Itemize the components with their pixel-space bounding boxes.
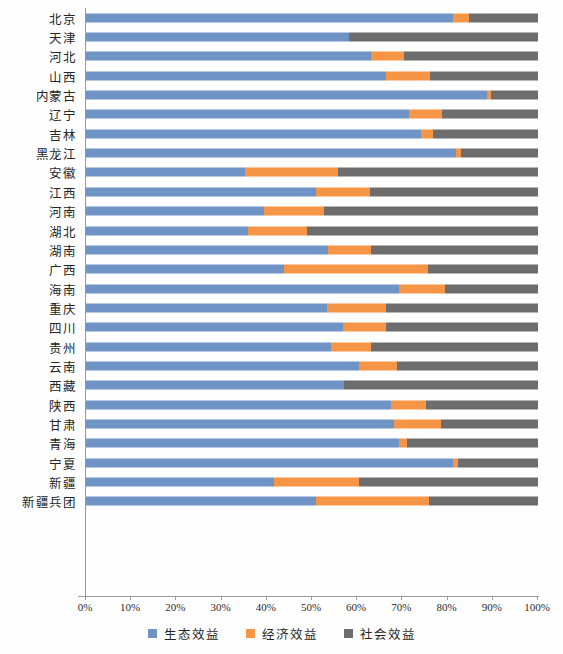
bar-segment-social bbox=[407, 439, 538, 448]
x-axis-tick-mark bbox=[221, 596, 222, 600]
x-axis-tick-mark bbox=[175, 596, 176, 600]
stacked-bar bbox=[86, 303, 538, 312]
stacked-bar bbox=[86, 168, 538, 177]
stacked-bar bbox=[86, 226, 538, 235]
stacked-bar bbox=[86, 110, 538, 119]
bar-segment-ecological bbox=[86, 168, 245, 177]
y-axis-category-label: 云南 bbox=[49, 356, 76, 375]
y-axis-category-label: 北京 bbox=[49, 8, 76, 27]
bar-segment-ecological bbox=[86, 52, 371, 61]
x-axis-tick-labels: 0%10%20%30%40%50%60%70%80%90%100% bbox=[0, 601, 563, 621]
chart-row: 甘肃 bbox=[0, 414, 563, 433]
bar-segment-social bbox=[386, 303, 538, 312]
bar-segment-economic bbox=[399, 284, 446, 293]
y-axis-category-label: 陕西 bbox=[49, 395, 76, 414]
chart-row: 湖北 bbox=[0, 221, 563, 240]
bar-segment-social bbox=[338, 168, 538, 177]
bar-segment-ecological bbox=[86, 187, 316, 196]
stacked-bar bbox=[86, 245, 538, 254]
chart-row: 青海 bbox=[0, 434, 563, 453]
chart-row: 宁夏 bbox=[0, 453, 563, 472]
bar-segment-ecological bbox=[86, 497, 316, 506]
stacked-bar bbox=[86, 323, 538, 332]
stacked-bar bbox=[86, 13, 538, 22]
x-axis-tick-mark bbox=[537, 596, 538, 600]
bar-segment-economic bbox=[386, 71, 430, 80]
y-axis-category-label: 新疆兵团 bbox=[22, 492, 76, 511]
bar-segment-ecological bbox=[86, 303, 327, 312]
y-axis-category-label: 安徽 bbox=[49, 163, 76, 182]
bar-segment-ecological bbox=[86, 342, 331, 351]
chart-row: 山西 bbox=[0, 66, 563, 85]
x-axis-tick-mark bbox=[356, 596, 357, 600]
bar-segment-economic bbox=[284, 265, 428, 274]
chart-row: 贵州 bbox=[0, 337, 563, 356]
y-axis-category-label: 内蒙古 bbox=[36, 86, 77, 105]
x-axis-tick-mark bbox=[311, 596, 312, 600]
y-axis-category-label: 黑龙江 bbox=[36, 144, 77, 163]
stacked-bar bbox=[86, 381, 538, 390]
bar-segment-social bbox=[428, 265, 538, 274]
bar-segment-economic bbox=[421, 129, 433, 138]
bar-segment-economic bbox=[316, 187, 370, 196]
bar-segment-ecological bbox=[86, 91, 487, 100]
chart-row: 辽宁 bbox=[0, 105, 563, 124]
bar-segment-economic bbox=[245, 168, 338, 177]
square-swatch-blue bbox=[148, 629, 157, 638]
bar-segment-social bbox=[324, 207, 538, 216]
stacked-bar bbox=[86, 265, 538, 274]
y-axis-category-label: 湖北 bbox=[49, 221, 76, 240]
bar-segment-social bbox=[397, 361, 538, 370]
legend-item[interactable]: 生态效益 bbox=[148, 624, 220, 643]
chart-row: 河南 bbox=[0, 202, 563, 221]
stacked-bar bbox=[86, 458, 538, 467]
stacked-bar bbox=[86, 400, 538, 409]
legend-label: 社会效益 bbox=[360, 624, 416, 643]
stacked-bar bbox=[86, 52, 538, 61]
x-axis-tick-label: 80% bbox=[437, 601, 457, 613]
chart-row: 西藏 bbox=[0, 376, 563, 395]
bar-segment-social bbox=[429, 497, 538, 506]
bar-segment-social bbox=[469, 13, 538, 22]
bar-segment-economic bbox=[409, 110, 442, 119]
chart-row: 陕西 bbox=[0, 395, 563, 414]
x-axis-line bbox=[78, 596, 539, 597]
y-axis-category-label: 吉林 bbox=[49, 124, 76, 143]
y-axis-category-label: 湖南 bbox=[49, 240, 76, 259]
y-axis-category-label: 新疆 bbox=[49, 473, 76, 492]
stacked-bar bbox=[86, 439, 538, 448]
x-axis-tick-label: 40% bbox=[256, 601, 276, 613]
y-axis-category-label: 山西 bbox=[49, 66, 76, 85]
bar-segment-ecological bbox=[86, 478, 274, 487]
y-axis-category-label: 重庆 bbox=[49, 298, 76, 317]
x-axis-tick-label: 90% bbox=[482, 601, 502, 613]
bar-segment-social bbox=[404, 52, 538, 61]
x-axis-tick-mark bbox=[266, 596, 267, 600]
bar-segment-social bbox=[386, 323, 538, 332]
bar-segment-ecological bbox=[86, 149, 456, 158]
bar-segment-economic bbox=[248, 226, 307, 235]
bar-segment-ecological bbox=[86, 458, 453, 467]
chart-row: 云南 bbox=[0, 356, 563, 375]
legend-item[interactable]: 经济效益 bbox=[246, 624, 318, 643]
bar-segment-social bbox=[430, 71, 538, 80]
bar-segment-social bbox=[441, 420, 538, 429]
stacked-bar bbox=[86, 478, 538, 487]
bar-segment-economic bbox=[394, 420, 441, 429]
bar-segment-ecological bbox=[86, 110, 409, 119]
bar-segment-economic bbox=[359, 361, 397, 370]
bar-segment-economic bbox=[371, 52, 404, 61]
bar-segment-economic bbox=[343, 323, 385, 332]
bar-segment-ecological bbox=[86, 245, 328, 254]
bar-segment-ecological bbox=[86, 361, 359, 370]
chart-row: 天津 bbox=[0, 27, 563, 46]
y-axis-category-label: 青海 bbox=[49, 434, 76, 453]
bar-segment-social bbox=[371, 245, 538, 254]
y-axis-category-label: 四川 bbox=[49, 318, 76, 337]
bar-segment-economic bbox=[328, 245, 371, 254]
legend-item[interactable]: 社会效益 bbox=[344, 624, 416, 643]
chart-row: 江西 bbox=[0, 182, 563, 201]
bar-segment-ecological bbox=[86, 13, 453, 22]
square-swatch-orange bbox=[246, 629, 255, 638]
y-axis-category-label: 西藏 bbox=[49, 376, 76, 395]
